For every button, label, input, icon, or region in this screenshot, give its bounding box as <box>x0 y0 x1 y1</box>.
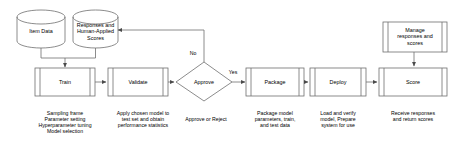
caption-score-line-2: and return scores <box>374 116 452 122</box>
datastore-responses-scores-label: Responses and Human-Applied Scores <box>73 22 118 41</box>
step-score-label[interactable]: Score <box>384 79 442 85</box>
step-deploy-label[interactable]: Deploy <box>315 79 361 85</box>
caption-approve-line-1: Approve or Reject <box>176 116 236 122</box>
step-approve-label[interactable]: Approve <box>184 79 224 85</box>
caption-validate: Apply chosen model to test set and obtai… <box>105 110 181 128</box>
flowchart-canvas: Item Data Responses and Human-Applied Sc… <box>0 0 458 149</box>
caption-package: Package model parameters, train, and tes… <box>241 110 309 128</box>
step-train-label[interactable]: Train <box>40 79 90 85</box>
caption-score: Receive responses and return scores <box>374 110 452 122</box>
edge-label-no: No <box>186 50 200 56</box>
edge-approve-no <box>118 30 204 62</box>
caption-validate-line-3: performance statistics <box>105 122 181 128</box>
step-validate-label[interactable]: Validate <box>113 79 163 85</box>
datastore-item-data-label: Item Data <box>17 28 65 34</box>
edge-label-yes: Yes <box>225 69 241 75</box>
caption-deploy: Load and verify model, Prepare system fo… <box>307 110 369 128</box>
caption-approve: Approve or Reject <box>176 116 236 122</box>
manage-box-line3: scores <box>388 40 442 46</box>
datastore-responses-scores-line3: Scores <box>73 35 118 41</box>
datastore-responses-scores-line2: Human-Applied <box>73 28 118 34</box>
caption-deploy-line-3: system for use <box>307 122 369 128</box>
caption-train: Sampling frame Parameter setting Hyperpa… <box>15 110 115 135</box>
caption-package-line-3: and test data <box>241 122 309 128</box>
caption-train-line-4: Model selection <box>15 128 115 134</box>
step-package-label[interactable]: Package <box>251 79 299 85</box>
manage-box-label[interactable]: Manage responses and scores <box>388 27 442 46</box>
edge-datastores-junction <box>41 48 96 58</box>
